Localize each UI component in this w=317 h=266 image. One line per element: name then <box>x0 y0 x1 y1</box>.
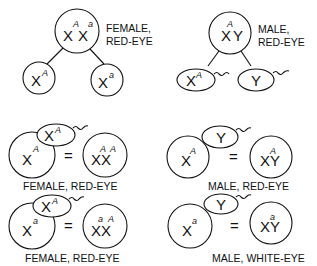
sperm-chromosome: Y <box>216 129 226 146</box>
egg-allele: A <box>32 144 39 154</box>
sperm-tail <box>69 197 84 201</box>
sperm-tail <box>214 73 229 76</box>
female-chromosome-2: X <box>78 27 88 44</box>
female-chromosome-1: X <box>63 27 73 44</box>
sperm-allele: A <box>54 125 61 135</box>
egg-chromosome: X <box>31 72 41 89</box>
fertilization-4: X a Y = XY a MALE, WHITE-EYE <box>168 194 305 264</box>
offspring-label: MALE, RED-EYE <box>208 180 289 192</box>
male-chromosome-1: X <box>221 27 231 44</box>
egg-allele: A <box>189 146 196 156</box>
meiosis-line <box>241 51 251 66</box>
zygote-allele-2: A <box>107 214 114 224</box>
equals-sign: = <box>64 147 73 164</box>
zygote-allele-1: a <box>270 212 275 222</box>
zygote-genotype: XX <box>91 222 111 239</box>
zygote-allele-2: A <box>109 144 116 154</box>
equals-sign: = <box>229 148 238 165</box>
zygote-allele-1: A <box>269 146 276 156</box>
egg-chromosome: X <box>182 222 192 239</box>
egg-chromosome: X <box>22 151 32 168</box>
fertilization-2: X A Y = XY A MALE, RED-EYE <box>167 126 292 192</box>
zygote-allele-1: A <box>99 144 106 154</box>
female-parent-label-2: RED-EYE <box>106 35 153 47</box>
sperm-chromosome: X <box>41 198 51 215</box>
sperm-chromosome: X <box>186 72 196 89</box>
meiosis-line <box>47 48 63 64</box>
offspring-label: FEMALE, RED-EYE <box>25 252 120 264</box>
sperm-chromosome: X <box>44 127 54 144</box>
equals-sign: = <box>230 217 239 234</box>
egg-allele: a <box>109 70 114 80</box>
egg-allele: A <box>41 68 48 78</box>
male-parent: X A Y MALE, RED-EYE X A Y <box>177 12 305 91</box>
female-parent-label-1: FEMALE, <box>106 22 151 34</box>
female-parent-cell <box>55 9 99 53</box>
zygote-allele-1: a <box>98 214 103 224</box>
male-parent-label-1: MALE, <box>258 23 290 35</box>
male-parent-label-2: RED-EYE <box>258 36 305 48</box>
egg-chromosome: X <box>22 222 32 239</box>
equals-sign: = <box>64 217 73 234</box>
female-parent: X A X a FEMALE, RED-EYE X A X a <box>23 9 153 96</box>
genetics-diagram: X A X a FEMALE, RED-EYE X A X a X A Y MA… <box>0 0 317 266</box>
fertilization-3: X a X A = XX a A FEMALE, RED-EYE <box>9 195 127 264</box>
meiosis-line <box>90 49 104 64</box>
sperm-chromosome: Y <box>216 196 226 213</box>
sperm-tail <box>73 126 88 130</box>
egg-chromosome: X <box>98 74 108 91</box>
egg-allele: a <box>33 216 38 226</box>
sperm-chromosome: Y <box>251 72 261 89</box>
sperm-allele: A <box>51 196 58 206</box>
sperm-tail <box>236 128 251 132</box>
sperm-allele: A <box>195 70 202 80</box>
female-allele-2: a <box>88 19 93 29</box>
sperm-tail <box>273 71 289 75</box>
male-allele-1: A <box>226 19 233 29</box>
egg-allele: a <box>192 216 197 226</box>
offspring-label: MALE, WHITE-EYE <box>212 252 305 264</box>
sperm-tail <box>236 195 251 199</box>
fertilization-1: X A X A = XX A A FEMALE, RED-EYE <box>9 124 127 192</box>
offspring-label: FEMALE, RED-EYE <box>23 180 118 192</box>
meiosis-line <box>208 51 219 66</box>
male-chromosome-2: Y <box>233 27 243 44</box>
